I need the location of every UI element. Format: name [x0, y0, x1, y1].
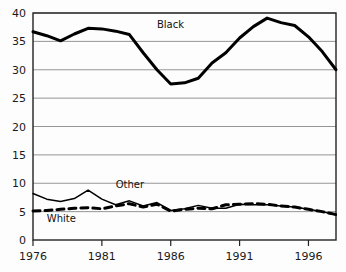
y-tick-label: 0: [19, 234, 26, 247]
y-tick-label: 35: [12, 35, 26, 48]
y-tick-label: 5: [19, 206, 26, 219]
x-tick-label: 1996: [294, 250, 322, 263]
x-tick-label: 1981: [88, 250, 116, 263]
annotation-black: Black: [157, 19, 184, 30]
x-axis-ticks: [33, 240, 308, 246]
x-tick-label: 1991: [226, 250, 254, 263]
y-tick-label: 10: [12, 177, 26, 190]
annotation-other: Other: [116, 179, 145, 190]
x-tick-label: 1986: [157, 250, 185, 263]
series-line-white: [33, 204, 336, 215]
y-tick-label: 40: [12, 7, 26, 20]
line-chart: 0510152025303540 19761981198619911996 Bl…: [0, 0, 346, 272]
data-series-group: [33, 18, 336, 215]
x-axis-tick-labels: 19761981198619911996: [19, 250, 322, 263]
y-tick-label: 20: [12, 121, 26, 134]
y-tick-label: 30: [12, 64, 26, 77]
gridlines: [33, 13, 336, 212]
y-tick-label: 25: [12, 92, 26, 105]
series-annotations: BlackOtherWhite: [47, 19, 184, 224]
annotation-white: White: [47, 213, 76, 224]
series-line-black: [33, 18, 336, 84]
chart-canvas: 0510152025303540 19761981198619911996 Bl…: [0, 0, 346, 272]
x-tick-label: 1976: [19, 250, 47, 263]
y-axis-tick-labels: 0510152025303540: [12, 7, 26, 247]
y-tick-label: 15: [12, 149, 26, 162]
